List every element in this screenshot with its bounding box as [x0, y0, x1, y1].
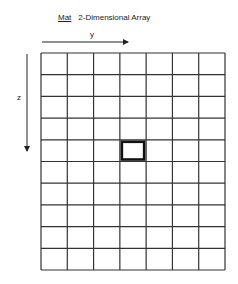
diagram-canvas	[0, 0, 238, 284]
highlighted-cell	[122, 142, 144, 160]
array-grid	[41, 53, 225, 270]
